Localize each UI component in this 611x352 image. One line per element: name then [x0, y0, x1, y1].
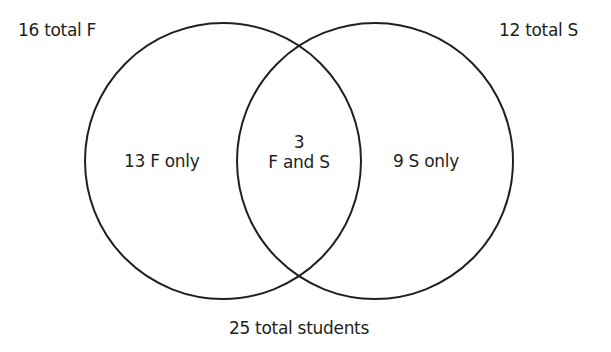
- intersection-count: 3: [249, 132, 349, 152]
- total-f-label: 16 total F: [18, 20, 96, 40]
- universe-label: 25 total students: [199, 318, 399, 338]
- total-s-label: 12 total S: [499, 20, 578, 40]
- s-only-label: 9 S only: [393, 151, 459, 171]
- venn-diagram: [0, 0, 611, 352]
- intersection-label: F and S: [249, 152, 349, 172]
- f-only-label: 13 F only: [124, 151, 199, 171]
